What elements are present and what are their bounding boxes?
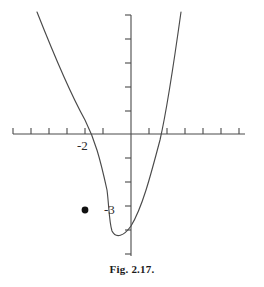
x-axis-tick-label-neg2: -2 <box>77 139 88 152</box>
figure-caption: Fig. 2.17. <box>0 263 264 275</box>
y-axis-tick-label-neg3: -3 <box>104 203 115 216</box>
parabola-plot <box>0 0 264 264</box>
x-axis-ticks <box>13 128 239 134</box>
marked-point <box>82 207 89 214</box>
figure-container: -2 -3 Fig. 2.17. <box>0 0 264 287</box>
